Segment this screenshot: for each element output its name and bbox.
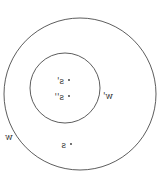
outer-circle-label: w [5, 132, 13, 142]
point-s [70, 143, 72, 145]
outer-circle [4, 18, 156, 170]
inner-circle [30, 53, 100, 123]
point-label-s-prime: s' [57, 76, 64, 86]
point-label-s-double-prime: s'' [54, 92, 64, 102]
point-s-double-prime [68, 95, 70, 97]
concentric-circles-diagram: w w' s' s'' s [0, 0, 157, 175]
point-label-s: s [61, 140, 66, 150]
point-s-prime [68, 79, 70, 81]
inner-circle-label: w' [103, 91, 113, 101]
